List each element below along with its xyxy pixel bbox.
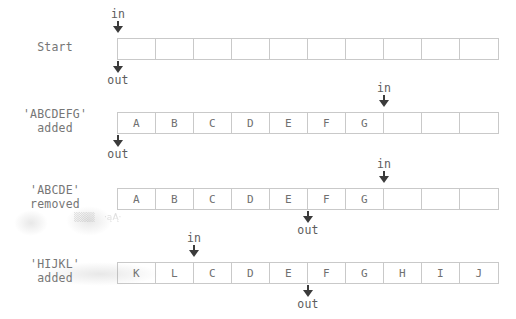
queue-cell — [460, 189, 498, 209]
queue-strip: ABCDEFG — [117, 188, 499, 210]
arrow-down-icon — [189, 250, 199, 257]
out-pointer: out — [98, 135, 138, 160]
queue-cell — [384, 39, 422, 59]
in-pointer-label: in — [364, 158, 404, 170]
row-caption-line: Start — [0, 41, 110, 55]
row-caption-line: added — [0, 122, 110, 136]
queue-cell: I — [422, 263, 460, 283]
queue-cell — [194, 39, 232, 59]
queue-cell: E — [270, 113, 308, 133]
queue-cell: E — [270, 189, 308, 209]
out-pointer-label: out — [288, 224, 328, 236]
queue-cell: J — [460, 263, 498, 283]
queue-strip: ABCDEFG — [117, 112, 499, 134]
queue-cell: L — [156, 263, 194, 283]
queue-strip — [117, 38, 499, 60]
queue-cell: D — [232, 263, 270, 283]
queue-cell — [270, 39, 308, 59]
arrow-down-icon — [303, 290, 313, 297]
queue-cell — [422, 113, 460, 133]
queue-cell — [384, 113, 422, 133]
queue-cell: C — [194, 263, 232, 283]
row-caption: 'ABCDE'removed — [0, 184, 110, 211]
queue-cell: G — [346, 189, 384, 209]
queue-cell: C — [194, 113, 232, 133]
in-pointer: in — [98, 8, 138, 33]
queue-cell — [384, 189, 422, 209]
in-pointer: in — [364, 158, 404, 183]
queue-cell: B — [156, 113, 194, 133]
queue-cell — [422, 39, 460, 59]
arrow-down-icon — [379, 176, 389, 183]
in-pointer: in — [174, 232, 214, 257]
arrow-down-icon — [303, 216, 313, 223]
queue-cell — [232, 39, 270, 59]
queue-strip: KLCDEFGHIJ — [117, 262, 499, 284]
queue-cell: E — [270, 263, 308, 283]
out-pointer: out — [288, 211, 328, 236]
in-pointer-label: in — [98, 8, 138, 20]
queue-cell — [308, 39, 346, 59]
queue-cell — [460, 39, 498, 59]
queue-diagram: Start inout'ABCDEFG'addedABCDEFGinout'AB… — [0, 0, 516, 319]
in-pointer-label: in — [174, 232, 214, 244]
arrow-down-icon — [113, 26, 123, 33]
queue-cell: F — [308, 263, 346, 283]
queue-cell — [460, 113, 498, 133]
arrow-down-icon — [113, 140, 123, 147]
queue-cell: K — [118, 263, 156, 283]
row-caption-line: 'HIJKL' — [0, 258, 110, 272]
queue-cell: A — [118, 189, 156, 209]
out-pointer: out — [98, 61, 138, 86]
queue-cell: F — [308, 189, 346, 209]
arrow-down-icon — [379, 100, 389, 107]
queue-cell — [118, 39, 156, 59]
row-caption-line: removed — [0, 198, 110, 212]
queue-cell — [156, 39, 194, 59]
row-caption-line: added — [0, 272, 110, 286]
queue-cell — [422, 189, 460, 209]
queue-cell: D — [232, 189, 270, 209]
in-pointer: in — [364, 82, 404, 107]
arrow-down-icon — [113, 66, 123, 73]
row-caption: Start — [0, 41, 110, 68]
queue-cell: G — [346, 113, 384, 133]
row-caption-line — [0, 55, 110, 69]
out-pointer: out — [288, 285, 328, 310]
queue-cell: A — [118, 113, 156, 133]
queue-cell: G — [346, 263, 384, 283]
row-caption: 'HIJKL'added — [0, 258, 110, 285]
queue-cell: B — [156, 189, 194, 209]
queue-cell: H — [384, 263, 422, 283]
row-caption-line: 'ABCDEFG' — [0, 108, 110, 122]
row-caption: 'ABCDEFG'added — [0, 108, 110, 135]
queue-cell — [346, 39, 384, 59]
in-pointer-label: in — [364, 82, 404, 94]
out-pointer-label: out — [98, 74, 138, 86]
queue-cell: C — [194, 189, 232, 209]
out-pointer-label: out — [288, 298, 328, 310]
row-caption-line: 'ABCDE' — [0, 184, 110, 198]
out-pointer-label: out — [98, 148, 138, 160]
queue-cell: D — [232, 113, 270, 133]
queue-cell: F — [308, 113, 346, 133]
